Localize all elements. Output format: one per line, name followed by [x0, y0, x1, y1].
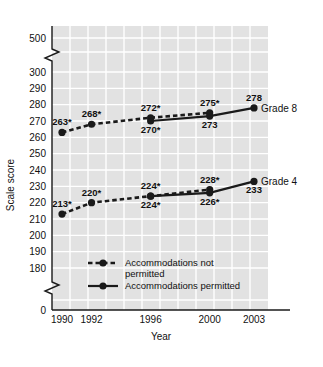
y-tick-label: 180 — [29, 263, 46, 274]
y-tick-label: 220 — [29, 197, 46, 208]
data-point-label: 275* — [200, 97, 220, 108]
x-axis-title: Year — [151, 331, 172, 342]
series-end-label: Grade 4 — [261, 176, 298, 187]
data-point-label: 226* — [200, 196, 220, 207]
legend-marker-swatch — [99, 259, 106, 266]
x-tick-label: 1996 — [139, 314, 162, 325]
x-tick-label: 2000 — [199, 314, 222, 325]
data-point-marker — [88, 121, 95, 128]
data-point-label: 272* — [141, 102, 161, 113]
y-tick-label: 190 — [29, 246, 46, 257]
series-end-label: Grade 8 — [261, 103, 298, 114]
data-point-marker — [88, 199, 95, 206]
y-tick-label: 260 — [29, 132, 46, 143]
data-point-label: 213* — [52, 198, 72, 209]
data-point-label: 270* — [141, 124, 161, 135]
data-point-marker — [58, 211, 65, 218]
y-tick-label: 200 — [29, 230, 46, 241]
y-axis-title: Scale score — [5, 158, 16, 211]
legend-label: Accommodations not — [125, 257, 214, 268]
data-point-label: 224* — [141, 180, 161, 191]
y-tick-label: 0 — [40, 305, 46, 316]
data-point-label: 263* — [52, 116, 72, 127]
legend-marker-swatch — [99, 282, 106, 289]
y-tick-label: 250 — [29, 148, 46, 159]
data-point-marker — [250, 104, 257, 111]
data-point-marker — [58, 129, 65, 136]
x-tick-label: 2003 — [243, 314, 266, 325]
y-tick-label: 280 — [29, 99, 46, 110]
y-tick-label: 230 — [29, 181, 46, 192]
y-tick-label: 290 — [29, 83, 46, 94]
y-tick-label: 270 — [29, 116, 46, 127]
data-point-label: 224* — [141, 199, 161, 210]
x-axis-tick-labels: 19901992199620002003 — [51, 314, 266, 325]
data-point-label: 220* — [82, 187, 102, 198]
legend-label-continued: permitted — [125, 268, 165, 279]
data-point-label: 233 — [246, 184, 262, 195]
data-point-label: 278 — [246, 92, 262, 103]
y-tick-label: 500 — [29, 33, 46, 44]
x-tick-label: 1992 — [80, 314, 103, 325]
legend-label: Accommodations permitted — [125, 280, 240, 291]
y-tick-label: 210 — [29, 214, 46, 225]
line-chart-figure: 5003002902802702602502402302202102001901… — [0, 0, 323, 367]
x-tick-label: 1990 — [51, 314, 74, 325]
data-point-label: 228* — [200, 174, 220, 185]
y-tick-label: 240 — [29, 165, 46, 176]
chart-container: 5003002902802702602502402302202102001901… — [0, 0, 323, 367]
data-point-label: 268* — [82, 108, 102, 119]
data-point-label: 273 — [202, 119, 218, 130]
y-tick-label: 300 — [29, 67, 46, 78]
y-axis-tick-labels: 5003002902802702602502402302202102001901… — [29, 33, 46, 316]
